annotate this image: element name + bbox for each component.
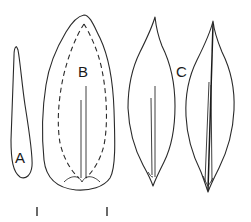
leaf-c-left-vein-1 bbox=[151, 98, 152, 175]
leaf-b: B bbox=[43, 15, 115, 190]
leaf-b-inner-outline bbox=[58, 24, 106, 178]
leaf-c-right bbox=[186, 21, 234, 192]
label-c: C bbox=[176, 63, 187, 80]
leaf-a: A bbox=[11, 47, 32, 178]
leaf-drawing: A B C bbox=[0, 0, 251, 222]
leaf-b-outline bbox=[43, 15, 115, 190]
figure-canvas: A B C bbox=[0, 0, 251, 222]
label-b: B bbox=[78, 63, 88, 80]
leaf-c-left bbox=[128, 17, 175, 186]
leaf-b-base-curve bbox=[64, 177, 100, 182]
scale-bar bbox=[37, 207, 107, 216]
label-a: A bbox=[15, 149, 25, 166]
leaf-c-right-vein-2 bbox=[211, 85, 212, 182]
